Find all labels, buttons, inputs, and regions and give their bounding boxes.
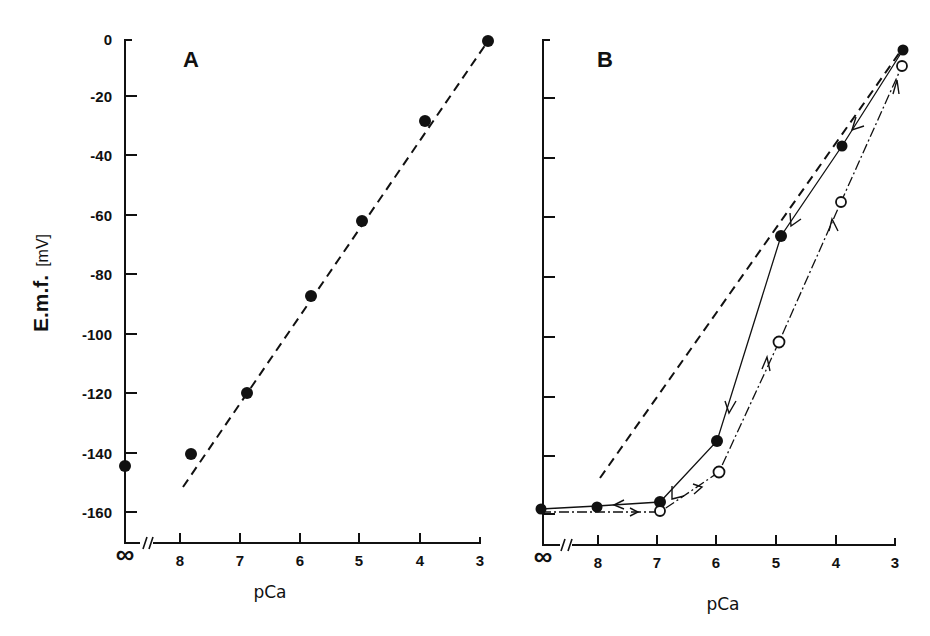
panel-a-x-tick-labels: 8 7 6 5 4 3 xyxy=(176,552,484,569)
data-point xyxy=(419,115,431,127)
svg-text:7: 7 xyxy=(236,552,244,569)
panel-a-label: A xyxy=(183,47,199,72)
data-point xyxy=(897,61,907,71)
y-axis-title: E.m.f.[mV] xyxy=(29,234,52,332)
panel-a-fit-line xyxy=(183,41,488,487)
y-axis-title-text: E.m.f. xyxy=(29,275,52,332)
panel-a-infinity-label: ∞ xyxy=(116,539,135,569)
panel-b-x-ticks xyxy=(598,535,836,545)
svg-text:-160: -160 xyxy=(82,504,112,521)
y-axis-unit: [mV] xyxy=(34,234,51,267)
panel-b-open-series-line xyxy=(541,66,902,512)
svg-text:E.m.f.[mV]: E.m.f.[mV] xyxy=(29,234,52,332)
data-point xyxy=(775,230,787,242)
data-point xyxy=(119,460,131,472)
data-point xyxy=(836,197,846,207)
panel-a-points xyxy=(119,35,494,472)
panel-b-reference-line xyxy=(600,52,900,478)
svg-text:4: 4 xyxy=(832,554,841,571)
data-point xyxy=(714,467,725,478)
panel-b-arrows-descending xyxy=(614,117,864,509)
panel-a-y-tick-labels: 0 -20 -40 -60 -80 -100 -120 -140 -160 xyxy=(82,31,112,521)
panel-b-axis-break xyxy=(561,539,572,551)
svg-text:-40: -40 xyxy=(90,147,112,164)
data-point xyxy=(837,141,848,152)
svg-text:-60: -60 xyxy=(90,207,112,224)
panel-b-infinity-label: ∞ xyxy=(534,541,553,571)
svg-text:3: 3 xyxy=(476,552,484,569)
data-point xyxy=(711,435,723,447)
svg-text:5: 5 xyxy=(772,554,780,571)
svg-text:8: 8 xyxy=(594,554,602,571)
data-point xyxy=(305,290,317,302)
panel-b-x-tick-labels: 8 7 6 5 4 3 xyxy=(594,554,899,571)
data-point xyxy=(241,387,253,399)
svg-text:6: 6 xyxy=(712,554,720,571)
svg-text:5: 5 xyxy=(355,552,363,569)
data-point xyxy=(536,504,547,515)
panel-b-x-axis xyxy=(572,538,895,545)
svg-text:6: 6 xyxy=(296,552,304,569)
panel-b-open-points xyxy=(655,61,907,516)
svg-text:7: 7 xyxy=(653,554,661,571)
panel-b-arrows-ascending xyxy=(630,80,899,516)
svg-text:-20: -20 xyxy=(90,88,112,105)
svg-text:8: 8 xyxy=(176,552,184,569)
svg-text:-140: -140 xyxy=(82,445,112,462)
panel-b-y-axis xyxy=(543,40,560,545)
panel-b-x-axis-title: pCa xyxy=(706,594,739,614)
data-point xyxy=(774,337,785,348)
svg-text:0: 0 xyxy=(104,31,112,48)
data-point xyxy=(898,45,909,56)
data-point xyxy=(655,506,665,516)
panel-a-y-ticks xyxy=(125,96,137,512)
panel-b-label: B xyxy=(597,47,613,72)
data-point xyxy=(482,35,494,47)
panel-b-filled-points xyxy=(536,45,909,515)
panel-a-x-axis xyxy=(153,537,480,543)
panel-a-x-axis-title: pCa xyxy=(253,582,286,602)
data-point xyxy=(185,448,197,460)
data-point xyxy=(356,215,368,227)
svg-text:4: 4 xyxy=(416,552,425,569)
panel-a-axis-break xyxy=(143,537,153,549)
svg-text:-120: -120 xyxy=(82,385,112,402)
svg-text:-80: -80 xyxy=(90,266,112,283)
svg-text:-100: -100 xyxy=(82,326,112,343)
svg-text:3: 3 xyxy=(891,554,899,571)
panel-a-x-ticks xyxy=(180,533,420,543)
panel-b-y-ticks xyxy=(543,98,555,514)
data-point xyxy=(592,502,603,513)
figure: E.m.f.[mV] xyxy=(0,0,930,636)
